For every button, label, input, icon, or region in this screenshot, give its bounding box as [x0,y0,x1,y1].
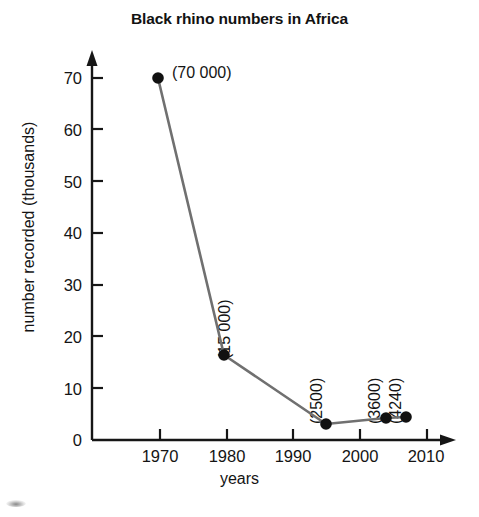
y-axis-ticks [92,78,103,388]
data-point-1995[interactable] [320,418,332,430]
data-point-markers [152,72,412,430]
scan-artifact [6,500,26,507]
data-point-1980[interactable] [218,349,230,361]
chart-plot-svg [0,0,479,517]
data-point-2004[interactable] [380,412,392,424]
y-axis [87,50,98,440]
data-point-1970[interactable] [152,72,164,84]
data-series-line [158,78,406,424]
x-axis-ticks [160,429,427,440]
x-axis [92,435,456,446]
data-point-2007[interactable] [400,411,412,423]
chart-figure: Black rhino numbers in Africa number rec… [0,0,479,517]
